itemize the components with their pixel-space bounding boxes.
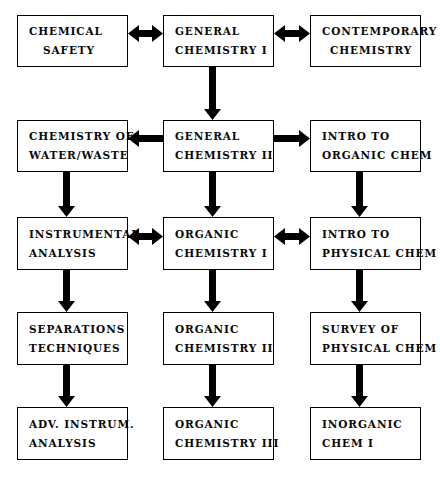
course-box-contemporary-chemistry[interactable]: CONTEMPORARYCHEMISTRY [310, 15, 421, 67]
course-title-line-1: ORGANIC [175, 415, 269, 434]
arrow-general-chemistry-i-general-chemistry-ii [204, 67, 221, 120]
course-title-line-2: CHEMISTRY I [175, 41, 269, 60]
chemistry-curriculum-flowchart: CHEMICALSAFETYGENERALCHEMISTRY ICONTEMPO… [0, 0, 440, 479]
arrow-separations-techniques-adv-instrum-analysis [58, 365, 75, 407]
course-title-line-1: INTRO TO [322, 127, 416, 146]
arrow-instrumental-analysis-separations-techniques [58, 270, 75, 312]
course-box-organic-chemistry-ii[interactable]: ORGANICCHEMISTRY II [163, 312, 274, 365]
course-title-line-1: INSTRUMENTAL [29, 225, 123, 244]
course-box-chemistry-of-water-waste[interactable]: CHEMISTRY OFWATER/WASTE [17, 120, 128, 172]
arrow-intro-to-physical-chem-survey-of-physical-chem [351, 270, 368, 312]
course-title-line-2: CHEMISTRY II [175, 146, 269, 165]
course-title-line-1: CHEMISTRY OF [29, 127, 123, 146]
course-title-line-2: CHEMISTRY II [175, 339, 269, 358]
course-box-chemical-safety[interactable]: CHEMICALSAFETY [17, 15, 128, 67]
course-title-line-2: PHYSICAL CHEM [322, 244, 416, 263]
course-title-line-2: ANALYSIS [29, 244, 123, 263]
course-title-line-1: ORGANIC [175, 225, 269, 244]
arrow-survey-of-physical-chem-inorganic-chem-i [351, 365, 368, 407]
arrow-general-chemistry-ii-organic-chemistry-i [204, 172, 221, 217]
course-title-line-1: GENERAL [175, 22, 269, 41]
course-title-line-1: GENERAL [175, 127, 269, 146]
course-box-instrumental-analysis[interactable]: INSTRUMENTALANALYSIS [17, 217, 128, 270]
course-title-line-2: ANALYSIS [29, 434, 123, 453]
arrow-general-chemistry-ii-intro-to-organic-chem [274, 130, 310, 147]
arrow-general-chemistry-i-contemporary-chemistry [274, 25, 310, 42]
course-title-line-1: ORGANIC [175, 320, 269, 339]
course-title-line-2: CHEMISTRY [322, 41, 416, 60]
course-box-organic-chemistry-iii[interactable]: ORGANICCHEMISTRY III [163, 407, 274, 460]
arrow-intro-to-organic-chem-intro-to-physical-chem [351, 172, 368, 217]
course-box-organic-chemistry-i[interactable]: ORGANICCHEMISTRY I [163, 217, 274, 270]
course-title-line-2: WATER/WASTE [29, 146, 123, 165]
course-title-line-1: SURVEY OF [322, 320, 416, 339]
arrow-organic-chemistry-ii-organic-chemistry-iii [204, 365, 221, 407]
course-title-line-2: CHEMISTRY I [175, 244, 269, 263]
course-title-line-1: SEPARATIONS [29, 320, 123, 339]
arrow-organic-chemistry-i-organic-chemistry-ii [204, 270, 221, 312]
course-title-line-2: CHEM I [322, 434, 416, 453]
course-title-line-1: INORGANIC [322, 415, 416, 434]
course-title-line-2: ORGANIC CHEM [322, 146, 416, 165]
course-box-separations-techniques[interactable]: SEPARATIONSTECHNIQUES [17, 312, 128, 365]
course-box-adv-instrum-analysis[interactable]: ADV. INSTRUM.ANALYSIS [17, 407, 128, 460]
course-box-inorganic-chem-i[interactable]: INORGANICCHEM I [310, 407, 421, 460]
arrow-organic-chemistry-i-intro-to-physical-chem [274, 228, 310, 245]
course-box-survey-of-physical-chem[interactable]: SURVEY OFPHYSICAL CHEM [310, 312, 421, 365]
course-title-line-2: PHYSICAL CHEM [322, 339, 416, 358]
course-title-line-2: SAFETY [29, 41, 123, 60]
course-title-line-2: CHEMISTRY III [175, 434, 269, 453]
course-title-line-2: TECHNIQUES [29, 339, 123, 358]
course-title-line-1: ADV. INSTRUM. [29, 415, 123, 434]
course-title-line-1: CONTEMPORARY [322, 22, 416, 41]
arrow-chemical-safety-general-chemistry-i [128, 25, 163, 42]
course-box-general-chemistry-ii[interactable]: GENERALCHEMISTRY II [163, 120, 274, 172]
course-box-general-chemistry-i[interactable]: GENERALCHEMISTRY I [163, 15, 274, 67]
course-box-intro-to-organic-chem[interactable]: INTRO TOORGANIC CHEM [310, 120, 421, 172]
course-title-line-1: CHEMICAL [29, 22, 123, 41]
course-title-line-1: INTRO TO [322, 225, 416, 244]
arrow-chemistry-of-water-waste-instrumental-analysis [58, 172, 75, 217]
course-box-intro-to-physical-chem[interactable]: INTRO TOPHYSICAL CHEM [310, 217, 421, 270]
